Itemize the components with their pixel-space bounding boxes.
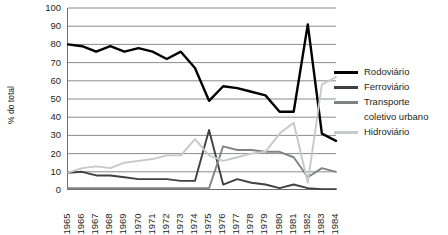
plot-svg bbox=[68, 8, 336, 190]
legend-swatch-icon bbox=[334, 71, 358, 74]
legend-item-label: coletivo urbano bbox=[364, 111, 428, 123]
legend-item[interactable]: Ferroviário bbox=[334, 81, 446, 94]
y-axis-tick-labels: 0102030405060708090100 bbox=[30, 8, 64, 190]
legend-swatch-icon bbox=[334, 131, 358, 134]
y-axis-tick-30: 30 bbox=[50, 131, 61, 141]
x-axis-tick-1970: 1970 bbox=[132, 213, 142, 234]
x-axis-tick-1979: 1979 bbox=[259, 213, 269, 234]
x-axis-tick-1983: 1983 bbox=[315, 213, 325, 234]
legend-item[interactable]: Transporte bbox=[334, 96, 446, 109]
legend-swatch-icon bbox=[334, 101, 358, 104]
x-axis-tick-1971: 1971 bbox=[146, 213, 156, 234]
x-axis-tick-1965: 1965 bbox=[62, 213, 72, 234]
y-axis-title: % do total bbox=[6, 58, 16, 152]
legend-item-label: Ferroviário bbox=[364, 81, 409, 93]
x-axis-tick-1981: 1981 bbox=[287, 213, 297, 234]
legend-item[interactable]: coletivo urbano bbox=[334, 111, 446, 124]
x-axis-tick-1974: 1974 bbox=[188, 213, 198, 234]
y-axis-tick-70: 70 bbox=[50, 58, 61, 68]
y-axis-tick-80: 80 bbox=[50, 40, 61, 50]
legend-item[interactable]: Rodoviário bbox=[334, 66, 446, 79]
y-axis-tick-20: 20 bbox=[50, 149, 61, 159]
y-axis-tick-40: 40 bbox=[50, 112, 61, 122]
x-axis-tick-1977: 1977 bbox=[231, 213, 241, 234]
x-axis-tick-1982: 1982 bbox=[301, 213, 311, 234]
y-axis-tick-10: 10 bbox=[50, 167, 61, 177]
x-axis-tick-1975: 1975 bbox=[203, 213, 213, 234]
x-axis-tick-1966: 1966 bbox=[76, 213, 86, 234]
legend-item-label: Transporte bbox=[364, 96, 410, 108]
plot-area bbox=[67, 8, 335, 190]
y-axis-tick-0: 0 bbox=[56, 185, 61, 195]
legend-swatch-icon bbox=[334, 86, 358, 89]
x-axis-tick-1973: 1973 bbox=[174, 213, 184, 234]
y-axis-tick-60: 60 bbox=[50, 76, 61, 86]
y-axis-tick-100: 100 bbox=[45, 3, 61, 13]
x-axis-tick-1972: 1972 bbox=[160, 213, 170, 234]
x-axis-tick-1980: 1980 bbox=[273, 213, 283, 234]
series-line-rodovi-rio bbox=[68, 24, 336, 140]
x-axis-tick-1968: 1968 bbox=[104, 213, 114, 234]
x-axis-tick-1976: 1976 bbox=[217, 213, 227, 234]
legend-item[interactable]: Hidroviário bbox=[334, 126, 446, 139]
x-axis-tick-1967: 1967 bbox=[90, 213, 100, 234]
y-axis-tick-50: 50 bbox=[50, 94, 61, 104]
x-axis-tick-1984: 1984 bbox=[330, 213, 340, 234]
x-axis-tick-1978: 1978 bbox=[245, 213, 255, 234]
legend-item-label: Hidroviário bbox=[364, 126, 409, 138]
chart-legend: RodoviárioFerroviárioTransportecoletivo … bbox=[334, 66, 446, 141]
y-axis-tick-90: 90 bbox=[50, 21, 61, 31]
legend-item-label: Rodoviário bbox=[364, 66, 409, 78]
x-axis-tick-1969: 1969 bbox=[118, 213, 128, 234]
line-chart: % do total 0102030405060708090100 196519… bbox=[0, 0, 448, 235]
legend-swatch-icon bbox=[334, 116, 358, 119]
x-axis-tick-labels: 1965196619671968196919701971197219731974… bbox=[67, 192, 335, 234]
